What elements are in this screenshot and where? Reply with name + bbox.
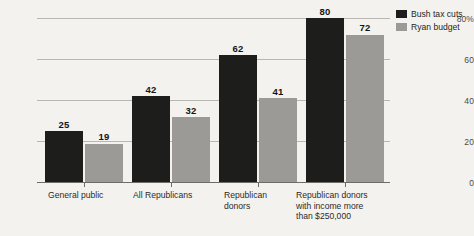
category-label-line: Republican — [224, 190, 304, 201]
x-axis-baseline — [37, 182, 390, 183]
bar-value-ryan-republican-donors: 41 — [259, 86, 297, 97]
x-axis-tick-1 — [84, 183, 85, 187]
bar-value-bush-general-public: 25 — [45, 119, 83, 130]
plot-area: 25 19 42 32 62 41 80 72 — [37, 18, 390, 183]
bar-value-ryan-all-republicans: 32 — [172, 105, 210, 116]
bar-bush-tax-cuts-republican-donors[interactable] — [219, 55, 257, 183]
category-label-line: All Republicans — [133, 190, 223, 201]
bar-value-ryan-republican-donors-high-income: 72 — [346, 22, 384, 33]
bar-value-bush-all-republicans: 42 — [132, 84, 170, 95]
y-axis-tick-20: 20 — [444, 137, 474, 147]
category-label-line: General public — [48, 190, 134, 201]
chart-legend: Bush tax cuts Ryan budget — [396, 9, 474, 35]
bar-bush-tax-cuts-republican-donors-high-income[interactable] — [306, 18, 344, 183]
bar-group-all-republicans: 42 32 — [132, 18, 210, 183]
x-axis-tick-3 — [258, 183, 259, 187]
legend-swatch-bush-tax-cuts — [396, 10, 407, 18]
legend-label-ryan-budget: Ryan budget — [411, 22, 460, 32]
legend-swatch-ryan-budget — [396, 23, 407, 31]
bar-bush-tax-cuts-all-republicans[interactable] — [132, 96, 170, 183]
category-label-general-public: General public — [48, 190, 134, 201]
legend-label-bush-tax-cuts: Bush tax cuts — [411, 9, 463, 19]
bar-ryan-budget-republican-donors-high-income[interactable] — [346, 35, 384, 184]
bar-chart: 80% 60 40 20 0 25 19 42 32 62 41 — [0, 0, 474, 236]
category-label-all-republicans: All Republicans — [133, 190, 223, 201]
bar-ryan-budget-all-republicans[interactable] — [172, 117, 210, 183]
bar-value-bush-republican-donors-high-income: 80 — [306, 6, 344, 17]
bar-value-ryan-general-public: 19 — [85, 131, 123, 142]
bar-bush-tax-cuts-general-public[interactable] — [45, 131, 83, 183]
bar-group-republican-donors-high-income: 80 72 — [306, 18, 384, 183]
legend-item-ryan-budget[interactable]: Ryan budget — [396, 22, 474, 32]
y-axis-tick-0: 0 — [444, 178, 474, 188]
category-label-line: donors — [224, 201, 304, 212]
category-label-republican-donors-high-income: Republican donors with income more than … — [296, 190, 406, 222]
bar-ryan-budget-republican-donors[interactable] — [259, 98, 297, 183]
category-label-line: Republican donors — [296, 190, 406, 201]
bar-ryan-budget-general-public[interactable] — [85, 144, 123, 183]
category-label-republican-donors: Republican donors — [224, 190, 304, 211]
y-axis-tick-60: 60 — [444, 55, 474, 65]
category-label-line: than $250,000 — [296, 211, 406, 222]
bar-group-general-public: 25 19 — [45, 18, 123, 183]
y-axis-tick-40: 40 — [444, 96, 474, 106]
category-label-line: with income more — [296, 201, 406, 212]
bar-value-bush-republican-donors: 62 — [219, 43, 257, 54]
x-axis-tick-4 — [345, 183, 346, 187]
legend-item-bush-tax-cuts[interactable]: Bush tax cuts — [396, 9, 474, 19]
x-axis-tick-2 — [171, 183, 172, 187]
bar-group-republican-donors: 62 41 — [219, 18, 297, 183]
